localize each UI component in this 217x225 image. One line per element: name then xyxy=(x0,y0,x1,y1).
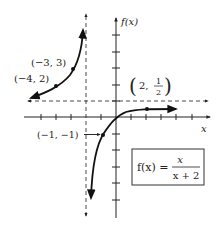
label-2-half: ( 2, 1 2 ) xyxy=(129,74,172,98)
point-neg1-neg1 xyxy=(101,133,105,137)
point-2-half xyxy=(145,107,149,111)
formula-lhs: f(x) = xyxy=(137,161,169,174)
right-paren: ) xyxy=(164,74,172,98)
function-formula-box: f(x) = x x + 2 xyxy=(132,149,204,185)
point-neg4-2 xyxy=(54,84,58,88)
svg-text:2,: 2, xyxy=(139,80,149,91)
svg-text:1: 1 xyxy=(156,77,161,86)
x-axis-label: x xyxy=(201,123,207,134)
label-neg4-2: (−4, 2) xyxy=(14,73,49,84)
formula-numerator: x xyxy=(177,154,183,165)
svg-text:2: 2 xyxy=(156,88,161,97)
y-axis-label: f(x) xyxy=(120,16,138,27)
label-neg3-3: (−3, 3) xyxy=(31,57,66,68)
label-neg1-neg1: (−1, −1) xyxy=(37,129,78,140)
left-paren: ( xyxy=(129,74,137,98)
point-neg3-3 xyxy=(71,67,75,71)
formula-denominator: x + 2 xyxy=(173,170,200,181)
function-graph: x f(x) (−3, 3) (−4, 2) (−1, −1) ( xyxy=(0,0,217,225)
